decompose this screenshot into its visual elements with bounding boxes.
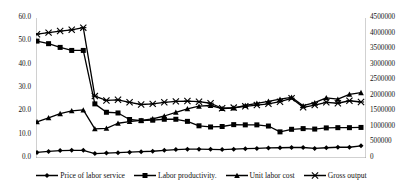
square-marker (208, 124, 213, 129)
square-marker (92, 101, 97, 106)
axis-tick-label: 4000000 (370, 30, 395, 37)
series-line (37, 28, 361, 109)
diamond-marker (289, 145, 294, 150)
legend-label: Gross output (328, 171, 367, 180)
square-marker (254, 122, 259, 127)
diamond-marker (58, 148, 63, 153)
cross-icon (304, 171, 326, 180)
square-marker (301, 126, 306, 131)
diamond-marker (150, 149, 155, 154)
diamond-marker (46, 149, 51, 154)
axis-tick-label: 500000 (370, 139, 392, 146)
square-marker (185, 119, 190, 124)
legend-label: Labor productivity. (158, 171, 217, 180)
chart-legend: Price of labor serviceLabor productivity… (0, 166, 403, 184)
diamond-marker (127, 150, 132, 155)
diamond-marker (92, 151, 97, 156)
diamond-marker (312, 146, 317, 151)
axis-tick-label: 2000000 (370, 92, 395, 99)
data-series (36, 39, 364, 135)
square-marker (116, 110, 121, 115)
axis-tick-label: 60.0 (18, 14, 31, 21)
square-marker (104, 110, 109, 115)
axis-tick-label: 10.0 (18, 131, 31, 138)
diamond-marker (278, 145, 283, 150)
diamond-marker (116, 150, 121, 155)
square-marker (36, 39, 40, 44)
legend-label: Price of labor service (60, 171, 125, 180)
axis-tick-label: 0 (370, 154, 374, 161)
axis-tick-label: 30.0 (18, 84, 31, 91)
square-marker (231, 122, 236, 127)
square-marker (81, 48, 86, 53)
square-marker (173, 117, 178, 122)
square-marker (69, 48, 74, 53)
triangle-icon (226, 171, 248, 180)
diamond-marker (335, 145, 340, 150)
square-marker (324, 125, 329, 130)
square-marker (266, 124, 271, 129)
diamond-marker (197, 147, 202, 152)
square-marker (312, 127, 317, 132)
diamond-marker (266, 145, 271, 150)
square-marker (347, 125, 352, 130)
axis-tick-label: 1000000 (370, 123, 395, 130)
axis-tick-label: 50.0 (18, 38, 31, 45)
diamond-marker (220, 147, 225, 152)
diamond-marker (208, 147, 213, 152)
axis-tick-label: 20.0 (18, 108, 31, 115)
square-marker (243, 122, 248, 127)
diamond-marker (36, 150, 40, 155)
axis-tick-label: 3500000 (370, 46, 395, 53)
axis-tick-label: 2500000 (370, 77, 395, 84)
axis-tick-label: 1500000 (370, 108, 395, 115)
diamond-marker (173, 147, 178, 152)
square-marker (335, 125, 340, 130)
series-line (37, 41, 361, 132)
diamond-marker (301, 145, 306, 150)
series-plot (36, 18, 366, 158)
diamond-marker (359, 143, 364, 148)
diamond-marker (81, 148, 86, 153)
axis-tick-label: 4500000 (370, 14, 395, 21)
legend-label: Unit labor cost (250, 171, 295, 180)
diamond-marker (139, 149, 144, 154)
square-marker (58, 45, 63, 50)
diamond-marker (324, 145, 329, 150)
legend-item[interactable]: Gross output (304, 171, 367, 180)
legend-item[interactable]: Price of labor service (36, 171, 125, 180)
square-marker (46, 41, 51, 46)
axis-tick-label: 3000000 (370, 61, 395, 68)
diamond-marker (347, 145, 352, 150)
square-icon (134, 171, 156, 180)
chart-container: 0.010.020.030.040.050.060.0 050000010000… (0, 0, 403, 191)
diamond-marker (243, 146, 248, 151)
legend-item[interactable]: Unit labor cost (226, 171, 295, 180)
diamond-marker (45, 173, 50, 178)
square-marker (143, 173, 148, 178)
axis-tick-label: 0.0 (22, 154, 31, 161)
diamond-marker (231, 147, 236, 152)
diamond-marker (162, 148, 167, 153)
plot-area (36, 18, 366, 158)
square-marker (197, 123, 202, 128)
diamond-marker (104, 151, 109, 156)
diamond-marker (69, 148, 74, 153)
square-marker (278, 129, 283, 134)
diamond-marker (254, 146, 259, 151)
diamond-icon (36, 171, 58, 180)
legend-item[interactable]: Labor productivity. (134, 171, 217, 180)
axis-tick-label: 40.0 (18, 61, 31, 68)
square-marker (220, 124, 225, 129)
data-series (36, 25, 364, 112)
square-marker (359, 125, 364, 130)
data-series (36, 143, 364, 156)
diamond-marker (185, 147, 190, 152)
square-marker (289, 127, 294, 132)
